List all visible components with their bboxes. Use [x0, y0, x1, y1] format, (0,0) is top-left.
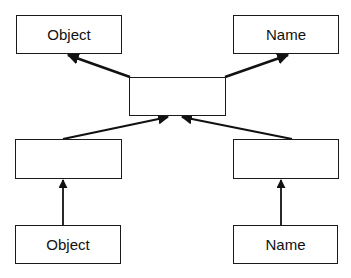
node-label: Name	[266, 26, 306, 43]
edge-middle-left-to-center	[63, 117, 168, 139]
node-bottom-left-object: Object	[15, 225, 121, 264]
node-label: Object	[47, 26, 90, 43]
node-top-left-object: Object	[16, 15, 122, 54]
node-middle-right	[233, 139, 339, 179]
node-top-right-name: Name	[233, 15, 339, 54]
node-bottom-right-name: Name	[233, 225, 338, 264]
node-label: Object	[46, 236, 89, 253]
node-middle-left	[15, 139, 122, 179]
edge-center-to-top-left	[68, 55, 130, 77]
node-center	[129, 77, 226, 116]
edge-center-to-top-right	[225, 55, 288, 77]
node-label: Name	[265, 236, 305, 253]
edge-middle-right-to-center	[182, 117, 292, 139]
